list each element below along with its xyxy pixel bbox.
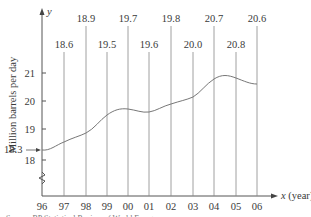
svg-text:06: 06 [252,201,263,212]
svg-text:20.8: 20.8 [227,39,245,50]
svg-text:96: 96 [37,201,48,212]
svg-text:03: 03 [188,201,199,212]
y-axis-label: Million barrels per day [7,56,18,153]
x-axis-label: x (year) [280,190,311,202]
svg-text:04: 04 [209,201,220,212]
svg-text:98: 98 [81,201,92,212]
svg-text:02: 02 [166,201,177,212]
svg-text:20: 20 [25,96,36,107]
svg-text:19.8: 19.8 [162,13,180,24]
svg-text:00: 00 [123,201,134,212]
svg-text:99: 99 [102,201,113,212]
y-axis-letter: y [46,6,52,17]
svg-text:20.6: 20.6 [248,13,266,24]
arrow-right-icon [36,148,41,152]
svg-text:21: 21 [25,68,36,79]
y-ticks: 21 20 19 18 [25,68,47,166]
svg-text:05: 05 [231,201,242,212]
chart: y x (year) Million barrels per day 21 20… [0,0,311,217]
svg-text:19.6: 19.6 [140,39,158,50]
svg-text:18.6: 18.6 [55,39,73,50]
data-curve [42,76,257,151]
x-axis-arrow-icon [271,194,278,199]
x-ticks: 96 97 98 99 00 01 02 03 04 05 06 [37,201,263,212]
svg-text:19.7: 19.7 [119,13,137,24]
y-axis-arrow-icon [40,8,45,15]
value-labels: 18.6 18.9 19.5 19.7 19.6 19.8 20.0 20.7 … [55,13,266,50]
svg-text:18.9: 18.9 [77,13,95,24]
svg-text:18: 18 [25,155,36,166]
start-value-annotation: 18.3 [4,144,22,155]
svg-text:97: 97 [59,201,70,212]
svg-text:01: 01 [144,201,155,212]
svg-text:19.5: 19.5 [98,39,116,50]
value-leader-lines [64,26,257,196]
svg-text:20.0: 20.0 [184,39,202,50]
svg-text:19: 19 [25,124,36,135]
source-note: Source: BP Statistical Review of World E… [6,214,157,217]
svg-text:20.7: 20.7 [205,13,223,24]
